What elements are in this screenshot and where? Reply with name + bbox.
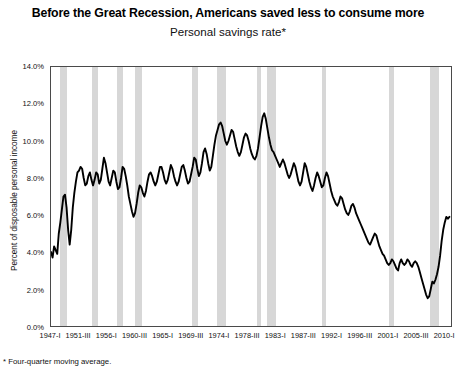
x-tick-label: 1956-I [96,331,117,340]
plot-area [50,66,452,327]
x-tick-label: 1996-III [347,331,372,340]
x-tick-label: 1951-III [66,331,91,340]
x-tick-label: 1947-I [40,331,61,340]
x-tick-label: 2010-I [434,331,455,340]
x-tick-label: 2001-I [377,331,398,340]
savings-rate-line-layer [51,67,451,326]
chart-figure: Before the Great Recession, Americans sa… [0,0,456,375]
y-tick-label: 10.0% [22,136,44,145]
savings-rate-line [51,67,451,326]
y-tick-label: 6.0% [27,211,44,220]
x-tick-label: 1983-I [265,331,286,340]
x-tick-label: 2005-III [403,331,428,340]
y-tick-label: 2.0% [27,285,44,294]
x-tick-label: 1969-III [178,331,203,340]
y-axis: Percent of disposable personal income 0.… [0,0,48,375]
x-axis: 1947-I1951-III1956-I1960-III1965-I1969-I… [50,331,452,347]
x-tick-label: 1992-I [321,331,342,340]
y-tick-label: 8.0% [27,173,44,182]
y-tick-label: 4.0% [27,248,44,257]
x-tick-label: 1978-III [235,331,260,340]
y-axis-title: Percent of disposable personal income [10,93,19,308]
x-tick-label: 1974-I [208,331,229,340]
chart-subtitle: Personal savings rate* [0,25,456,38]
y-tick-label: 12.0% [22,99,44,108]
x-tick-label: 1987-III [291,331,316,340]
y-tick-label: 14.0% [22,62,44,71]
x-tick-label: 1965-I [152,331,173,340]
chart-title: Before the Great Recession, Americans sa… [0,6,456,20]
x-tick-label: 1960-III [122,331,147,340]
chart-footnote: * Four-quarter moving average. [3,357,111,366]
